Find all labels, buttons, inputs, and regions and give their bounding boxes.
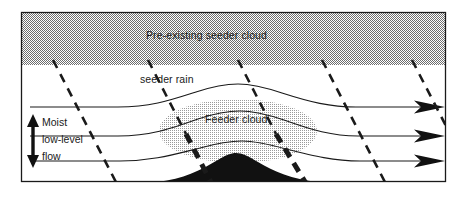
- seeder-cloud-label: Pre-existing seeder cloud: [146, 29, 267, 41]
- flow-label-line-1: Moist: [42, 114, 83, 131]
- flow-label-line-3: flow: [42, 148, 83, 165]
- moist-low-level-flow-label: Moist low-level flow: [42, 114, 83, 165]
- seeder-feeder-diagram: Pre-existing seeder cloud seeder rain Fe…: [0, 0, 467, 198]
- flow-label-line-2: low-level: [42, 131, 83, 148]
- seeder-rain-label: seeder rain: [140, 73, 194, 85]
- feeder-cloud-label: Feeder cloud: [205, 113, 268, 125]
